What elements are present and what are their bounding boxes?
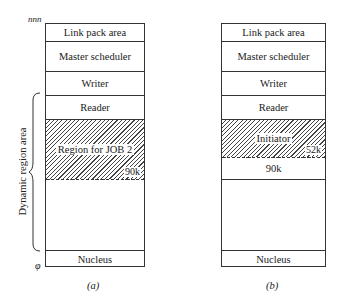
reader: Reader <box>222 96 325 120</box>
block-label: Link pack area <box>242 27 304 38</box>
master-scheduler: Master scheduler <box>46 42 144 72</box>
block-label: Master scheduler <box>237 51 309 62</box>
size-label: 52k <box>305 145 322 155</box>
remaining-90k: 90k <box>222 158 325 180</box>
block-label: Nucleus <box>256 254 290 265</box>
dynamic-region-label: Dynamic region area <box>17 122 28 222</box>
free-area <box>222 180 325 251</box>
block-label: Reader <box>259 102 289 113</box>
free-area <box>46 180 144 251</box>
brace-icon <box>28 92 42 252</box>
memory-map-b: Link pack area Master scheduler Writer R… <box>221 23 326 267</box>
master-scheduler: Master scheduler <box>222 42 325 72</box>
memory-map-a: Link pack area Master scheduler Writer R… <box>45 23 145 267</box>
caption-b: (b) <box>266 280 278 291</box>
nucleus: Nucleus <box>222 251 325 267</box>
region-job2: Region for JOB 2 90k <box>46 120 144 180</box>
block-label: Nucleus <box>78 254 112 265</box>
block-label: Region for JOB 2 <box>56 144 134 155</box>
size-label: 90k <box>124 167 141 177</box>
caption-a: (a) <box>87 280 99 291</box>
link-pack-area: Link pack area <box>46 24 144 42</box>
block-label: Reader <box>80 102 110 113</box>
bottom-address-marker: φ <box>35 260 41 271</box>
writer: Writer <box>46 72 144 96</box>
reader: Reader <box>46 96 144 120</box>
block-label: Writer <box>82 78 109 89</box>
block-label: Writer <box>260 78 287 89</box>
writer: Writer <box>222 72 325 96</box>
block-label: Initiator <box>255 133 293 144</box>
initiator: Initiator 52k <box>222 120 325 158</box>
block-label: Link pack area <box>64 27 126 38</box>
top-address-marker: nnn <box>28 14 42 24</box>
block-label: 90k <box>266 163 282 174</box>
nucleus: Nucleus <box>46 251 144 267</box>
link-pack-area: Link pack area <box>222 24 325 42</box>
block-label: Master scheduler <box>59 51 131 62</box>
